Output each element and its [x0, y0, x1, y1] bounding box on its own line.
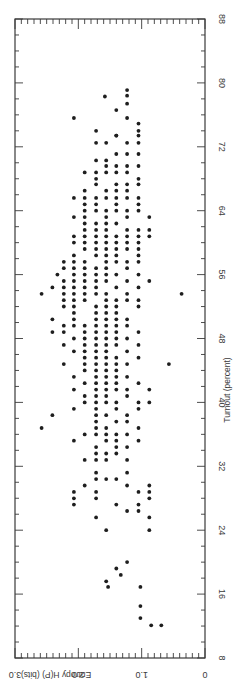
data-point	[83, 337, 87, 341]
data-point	[114, 305, 118, 309]
data-point	[94, 369, 98, 373]
data-point	[94, 477, 98, 481]
data-point	[104, 413, 108, 417]
data-point	[83, 279, 87, 283]
data-point	[104, 159, 108, 163]
data-point	[114, 452, 118, 456]
data-point	[104, 439, 108, 443]
data-point	[83, 458, 87, 462]
data-point	[114, 388, 118, 392]
data-point	[125, 445, 129, 449]
data-point	[83, 381, 87, 385]
data-point	[125, 394, 129, 398]
data-point	[104, 254, 108, 258]
data-point	[94, 171, 98, 175]
data-point	[94, 279, 98, 283]
data-point	[72, 375, 76, 379]
data-point	[83, 273, 87, 277]
x-tick-label: 72	[217, 142, 227, 152]
data-point	[125, 420, 129, 424]
y-tick-label: 1.0	[135, 670, 148, 680]
data-point	[104, 324, 108, 328]
data-point	[83, 362, 87, 366]
data-point	[104, 209, 108, 213]
x-axis-title: Turnout (percent)	[222, 357, 232, 423]
data-point	[62, 292, 66, 296]
data-point	[104, 317, 108, 321]
data-point	[104, 381, 108, 385]
data-point	[104, 362, 108, 366]
data-point	[139, 604, 143, 608]
data-point	[94, 241, 98, 245]
data-point	[94, 496, 98, 500]
data-point	[125, 433, 129, 437]
data-point	[137, 254, 141, 258]
data-point	[72, 215, 76, 219]
data-point	[137, 152, 141, 156]
data-point	[104, 388, 108, 392]
data-point	[62, 286, 66, 290]
data-point	[72, 116, 76, 120]
data-point	[106, 585, 110, 589]
data-point	[137, 177, 141, 181]
data-point	[104, 305, 108, 309]
data-point	[114, 247, 118, 251]
data-point	[94, 445, 98, 449]
data-point	[72, 266, 76, 270]
data-point	[137, 164, 141, 168]
data-point	[114, 439, 118, 443]
data-point	[114, 375, 118, 379]
x-tick-label: 24	[217, 525, 227, 535]
data-point	[137, 202, 141, 206]
data-point	[40, 426, 44, 430]
data-point	[147, 496, 151, 500]
data-point	[104, 337, 108, 341]
data-point	[104, 189, 108, 193]
data-point	[104, 477, 108, 481]
data-point	[104, 426, 108, 430]
data-point	[137, 343, 141, 347]
data-point	[114, 356, 118, 360]
data-point	[72, 298, 76, 302]
data-point	[94, 234, 98, 238]
data-point	[72, 241, 76, 245]
data-point	[94, 381, 98, 385]
data-point	[125, 141, 129, 145]
data-point	[83, 260, 87, 264]
data-point	[40, 292, 44, 296]
data-point	[114, 298, 118, 302]
y-tick-label: 3.0	[9, 670, 22, 680]
x-tick-label: 88	[217, 14, 227, 24]
data-point	[62, 298, 66, 302]
data-point	[94, 394, 98, 398]
data-point	[72, 490, 76, 494]
data-point	[114, 343, 118, 347]
data-point	[104, 234, 108, 238]
data-point	[114, 369, 118, 373]
data-point	[137, 490, 141, 494]
data-point	[137, 247, 141, 251]
x-tick-label: 32	[217, 461, 227, 471]
data-point	[114, 260, 118, 264]
data-point	[94, 129, 98, 133]
data-point	[149, 623, 153, 627]
data-point	[94, 458, 98, 462]
data-point	[125, 298, 129, 302]
data-point	[147, 388, 151, 392]
data-point	[114, 152, 118, 156]
data-point	[94, 286, 98, 290]
data-point	[125, 337, 129, 341]
data-point	[147, 215, 151, 219]
data-point	[137, 209, 141, 213]
data-point	[147, 516, 151, 520]
data-point	[94, 490, 98, 494]
data-point	[114, 317, 118, 321]
data-point	[114, 477, 118, 481]
data-point	[94, 209, 98, 213]
data-point	[114, 433, 118, 437]
data-point	[94, 228, 98, 232]
data-point	[83, 247, 87, 251]
data-point	[104, 171, 108, 175]
data-point	[167, 362, 171, 366]
data-point	[104, 452, 108, 456]
